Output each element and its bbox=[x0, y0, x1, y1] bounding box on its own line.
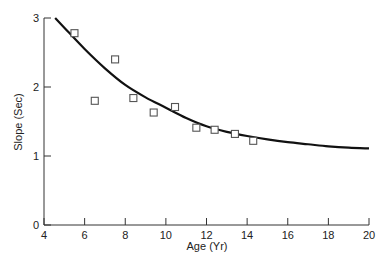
data-point-marker bbox=[211, 126, 218, 133]
data-point-marker bbox=[112, 56, 119, 63]
axes bbox=[44, 18, 369, 225]
data-point-marker bbox=[150, 109, 157, 116]
chart: 4681012141618200123 Age (Yr) Slope (Sec) bbox=[0, 0, 387, 272]
data-point-marker bbox=[231, 130, 238, 137]
data-points bbox=[71, 30, 257, 145]
data-point-marker bbox=[71, 30, 78, 37]
x-tick-label: 4 bbox=[41, 229, 47, 241]
y-axis-title: Slope (Sec) bbox=[12, 93, 24, 150]
x-axis-title: Age (Yr) bbox=[187, 240, 228, 252]
data-point-marker bbox=[91, 97, 98, 104]
data-point-marker bbox=[130, 95, 137, 102]
x-tick-label: 6 bbox=[82, 229, 88, 241]
data-point-marker bbox=[193, 124, 200, 131]
x-tick-label: 8 bbox=[122, 229, 128, 241]
x-tick-label: 10 bbox=[160, 229, 172, 241]
y-tick-label: 1 bbox=[33, 150, 39, 162]
y-tick-label: 2 bbox=[33, 81, 39, 93]
x-tick-label: 18 bbox=[322, 229, 334, 241]
y-tick-label: 0 bbox=[33, 219, 39, 231]
data-point-marker bbox=[250, 137, 257, 144]
x-tick-label: 20 bbox=[363, 229, 375, 241]
x-tick-label: 16 bbox=[282, 229, 294, 241]
x-tick-label: 14 bbox=[241, 229, 253, 241]
y-tick-label: 3 bbox=[33, 12, 39, 24]
data-point-marker bbox=[172, 104, 179, 111]
